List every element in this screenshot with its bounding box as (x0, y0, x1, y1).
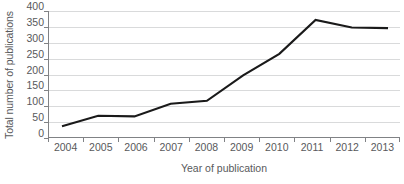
x-tick-label: 2005 (89, 141, 112, 154)
y-tick-label: 250 (14, 49, 44, 59)
x-tick-label: 2007 (160, 141, 183, 154)
y-tick-label: 150 (14, 80, 44, 90)
y-tick-label: 200 (14, 65, 44, 75)
series-line (48, 11, 400, 138)
x-axis-tick-labels: 2004200520062007200820092010201120122013 (48, 141, 400, 155)
x-tick-label: 2012 (336, 141, 359, 154)
y-tick-label: 0 (14, 128, 44, 138)
y-tick-label: 300 (14, 33, 44, 43)
x-tick-label: 2010 (265, 141, 288, 154)
y-tick-label: 50 (14, 112, 44, 122)
x-tick-label: 2013 (371, 141, 394, 154)
x-tick-label: 2006 (124, 141, 147, 154)
y-tick-label: 100 (14, 96, 44, 106)
y-tick-label: 400 (14, 1, 44, 11)
x-tick-label: 2011 (301, 141, 324, 154)
x-tick-label: 2009 (230, 141, 253, 154)
y-tick-label: 350 (14, 17, 44, 27)
plot-area (48, 11, 400, 138)
x-axis-title: Year of publication (48, 162, 400, 175)
x-tick-label: 2008 (195, 141, 218, 154)
y-axis-tick-labels: 050100150200250300350400 (14, 6, 44, 138)
x-tick-label: 2004 (54, 141, 77, 154)
publications-line-chart: Total number of publications 05010015020… (0, 0, 404, 184)
